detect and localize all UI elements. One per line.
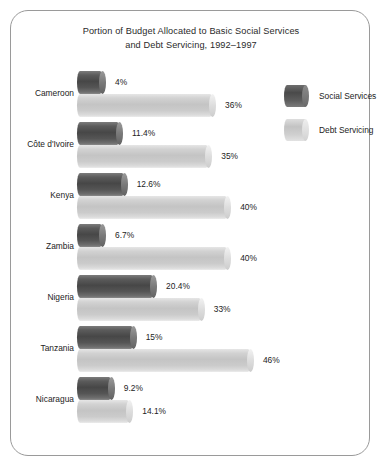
bar-value-label: 20.4% <box>166 281 190 291</box>
chart-card: Portion of Budget Allocated to Basic Soc… <box>10 10 370 456</box>
category-label: Kenya <box>11 190 74 200</box>
bar-social-services <box>77 326 134 349</box>
category-label: Cameroon <box>11 88 74 98</box>
category-label: Nicaragua <box>11 394 74 404</box>
bar-debt-servicing <box>77 298 202 321</box>
chart-title-line-2: and Debt Servicing, 1992–1997 <box>29 38 353 52</box>
bar-social-services <box>77 275 154 298</box>
bar-value-label: 35% <box>221 151 238 161</box>
category-label: Zambia <box>11 241 74 251</box>
category-label: Tanzania <box>11 343 74 353</box>
bar-value-label: 40% <box>240 202 257 212</box>
chart-plot-area: Cameroon4%36%Côte d'Ivoire11.4%35%Kenya1… <box>11 69 371 426</box>
bar-social-services <box>77 173 125 196</box>
bar-debt-servicing <box>77 349 251 372</box>
chart-group: Nicaragua9.2%14.1% <box>11 375 371 426</box>
bar-value-label: 36% <box>225 100 242 110</box>
bar-social-services <box>77 71 103 94</box>
chart-title-line-1: Portion of Budget Allocated to Basic Soc… <box>29 24 353 38</box>
bar-value-label: 4% <box>115 77 127 87</box>
bar-value-label: 12.6% <box>137 179 161 189</box>
chart-title: Portion of Budget Allocated to Basic Soc… <box>29 24 353 52</box>
bar-debt-servicing <box>77 196 228 219</box>
bar-debt-servicing <box>77 400 130 423</box>
bar-debt-servicing <box>77 247 228 270</box>
bar-debt-servicing <box>77 94 213 117</box>
bar-value-label: 46% <box>263 355 280 365</box>
bar-social-services <box>77 122 120 145</box>
bar-value-label: 6.7% <box>115 230 134 240</box>
bar-value-label: 9.2% <box>124 383 143 393</box>
bar-value-label: 11.4% <box>132 128 155 138</box>
bar-debt-servicing <box>77 145 209 168</box>
bar-value-label: 14.1% <box>142 406 166 416</box>
chart-group: Tanzania15%46% <box>11 324 371 375</box>
bar-value-label: 40% <box>240 253 257 263</box>
category-label: Nigeria <box>11 292 74 302</box>
category-label: Côte d'Ivoire <box>11 139 74 149</box>
chart-group: Zambia6.7%40% <box>11 222 371 273</box>
bar-social-services <box>77 224 103 247</box>
chart-group: Cameroon4%36% <box>11 69 371 120</box>
chart-group: Nigeria20.4%33% <box>11 273 371 324</box>
chart-group: Kenya12.6%40% <box>11 171 371 222</box>
bar-social-services <box>77 377 112 400</box>
bar-value-label: 15% <box>146 332 163 342</box>
bar-value-label: 33% <box>214 304 231 314</box>
chart-group: Côte d'Ivoire11.4%35% <box>11 120 371 171</box>
